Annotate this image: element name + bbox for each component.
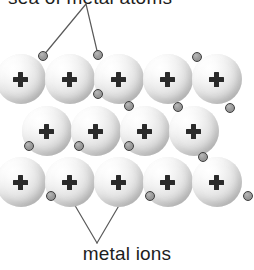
ion-lattice (0, 0, 254, 270)
delocalised-electron (93, 50, 103, 60)
bottom-label-metal-ions: metal ions (83, 243, 172, 265)
metal-ion (192, 54, 242, 104)
metallic-bonding-diagram: sea of metal atoms metal ions (0, 0, 254, 270)
delocalised-electron (24, 141, 34, 151)
delocalised-electron (243, 191, 253, 201)
positive-charge-icon (13, 175, 28, 190)
delocalised-electron (74, 141, 84, 151)
delocalised-electron (124, 101, 134, 111)
positive-charge-icon (62, 72, 77, 87)
delocalised-electron (46, 191, 56, 201)
metal-ion (169, 106, 219, 156)
metal-ion (94, 157, 144, 207)
delocalised-electron (225, 103, 235, 113)
positive-charge-icon (62, 175, 77, 190)
positive-charge-icon (160, 175, 175, 190)
delocalised-electron (145, 191, 155, 201)
delocalised-electron (38, 51, 48, 61)
positive-charge-icon (186, 124, 201, 139)
positive-charge-icon (209, 72, 224, 87)
positive-charge-icon (88, 124, 103, 139)
delocalised-electron (124, 141, 134, 151)
delocalised-electron (192, 52, 202, 62)
metal-ion (0, 54, 46, 104)
positive-charge-icon (111, 72, 126, 87)
positive-charge-icon (39, 124, 54, 139)
metal-ion (45, 54, 95, 104)
positive-charge-icon (111, 175, 126, 190)
metal-ion (192, 157, 242, 207)
positive-charge-icon (137, 124, 152, 139)
positive-charge-icon (13, 72, 28, 87)
delocalised-electron (198, 152, 208, 162)
positive-charge-icon (160, 72, 175, 87)
metal-ion (143, 54, 193, 104)
metal-ion (0, 157, 46, 207)
positive-charge-icon (209, 175, 224, 190)
delocalised-electron (173, 102, 183, 112)
delocalised-electron (93, 89, 103, 99)
